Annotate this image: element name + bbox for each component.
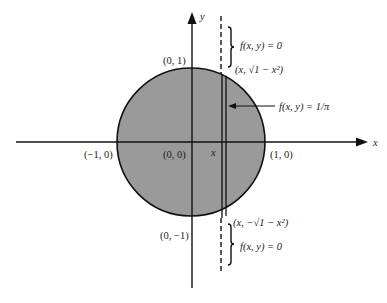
label-right-point: (1, 0) [270,149,293,161]
annotation-density: f(x, y) = 1/π [279,101,330,113]
label-left-point: (−1, 0) [84,149,113,161]
label-top-point: (0, 1) [163,55,186,67]
annotation-upper-point: (x, √1 − x²) [235,64,284,76]
unit-disk-diagram: x y (0, 1) (0, −1) (−1, 0) (1, 0) (0, 0)… [0,0,387,303]
y-axis-label: y [199,11,205,22]
label-x-marker: x [210,147,216,158]
annotation-upper-zero: f(x, y) = 0 [240,40,283,52]
label-bottom-point: (0, −1) [160,230,189,242]
upper-brace [228,27,234,67]
annotation-lower-point: (x, −√1 − x²) [233,217,289,229]
x-axis-label: x [372,137,378,148]
label-origin: (0, 0) [163,149,186,161]
x-axis-arrow-icon [356,138,368,147]
lower-brace [228,224,234,265]
y-axis-arrow-icon [188,12,197,24]
annotation-lower-zero: f(x, y) = 0 [240,241,283,253]
